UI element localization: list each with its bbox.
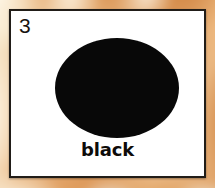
color-flashcard[interactable]: 3 black [9,9,206,178]
black-color-swatch [55,38,179,138]
flashcard-screen: 3 black [0,0,215,188]
color-name-label: black [11,139,204,160]
